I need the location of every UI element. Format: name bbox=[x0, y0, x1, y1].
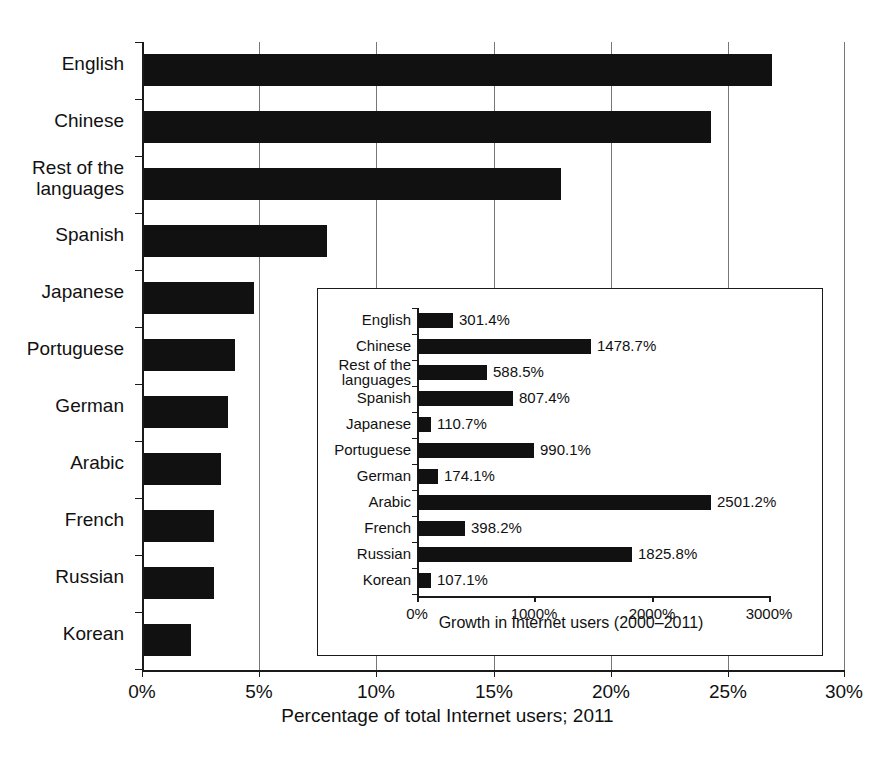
inset-label-rest-line2: languages bbox=[315, 372, 411, 388]
main-gridline-30 bbox=[844, 42, 845, 670]
main-label-english: English bbox=[0, 53, 124, 74]
main-label-japanese: Japanese bbox=[0, 281, 124, 302]
main-bar-russian bbox=[144, 567, 214, 599]
main-xticklabel-30: 30% bbox=[809, 681, 879, 703]
main-xtick-15 bbox=[494, 670, 495, 677]
main-label-korean: Korean bbox=[0, 623, 124, 644]
inset-value-korean: 107.1% bbox=[437, 571, 488, 588]
main-label-rest-line2: languages bbox=[0, 178, 124, 199]
inset-bar-german bbox=[418, 469, 438, 484]
inset-ytick-11 bbox=[412, 594, 417, 595]
main-x-axis-title: Percentage of total Internet users; 2011 bbox=[0, 705, 895, 727]
inset-ytick-5 bbox=[412, 438, 417, 439]
inset-x-axis-title: Growth in Internet users (2000–2011) bbox=[318, 614, 824, 632]
inset-value-russian: 1825.8% bbox=[638, 545, 697, 562]
main-label-portuguese: Portuguese bbox=[0, 338, 124, 359]
main-ytick-7 bbox=[135, 441, 142, 442]
main-ytick-9 bbox=[135, 555, 142, 556]
inset-label-french: French bbox=[315, 520, 411, 536]
main-label-chinese: Chinese bbox=[0, 110, 124, 131]
main-xticklabel-5: 5% bbox=[224, 681, 294, 703]
inset-label-chinese: Chinese bbox=[315, 338, 411, 354]
inset-value-french: 398.2% bbox=[471, 519, 522, 536]
main-label-german: German bbox=[0, 395, 124, 416]
inset-xtick-1000 bbox=[534, 596, 536, 602]
inset-label-english: English bbox=[315, 312, 411, 328]
inset-value-chinese: 1478.7% bbox=[597, 337, 656, 354]
main-bar-arabic bbox=[144, 453, 221, 485]
inset-ytick-3 bbox=[412, 386, 417, 387]
inset-label-russian: Russian bbox=[315, 546, 411, 562]
inset-ytick-9 bbox=[412, 542, 417, 543]
inset-chart-panel: English Chinese Rest of the languages Sp… bbox=[317, 288, 823, 656]
inset-xtick-3000 bbox=[769, 596, 771, 602]
inset-bar-japanese bbox=[418, 417, 431, 432]
main-xtick-0 bbox=[142, 670, 143, 677]
main-bar-german bbox=[144, 396, 228, 428]
inset-value-portuguese: 990.1% bbox=[540, 441, 591, 458]
main-ytick-6 bbox=[135, 384, 142, 385]
inset-label-portuguese: Portuguese bbox=[315, 442, 411, 458]
inset-ytick-7 bbox=[412, 490, 417, 491]
inset-value-spanish: 807.4% bbox=[519, 389, 570, 406]
inset-label-korean: Korean bbox=[315, 572, 411, 588]
main-bar-portuguese bbox=[144, 339, 235, 371]
inset-value-arabic: 2501.2% bbox=[717, 493, 776, 510]
main-ytick-0 bbox=[135, 42, 142, 43]
inset-ytick-2 bbox=[412, 360, 417, 361]
inset-label-japanese: Japanese bbox=[315, 416, 411, 432]
inset-xtick-0 bbox=[417, 596, 419, 602]
inset-ytick-8 bbox=[412, 516, 417, 517]
main-ytick-8 bbox=[135, 498, 142, 499]
main-ytick-2 bbox=[135, 156, 142, 157]
main-bar-english bbox=[144, 54, 772, 86]
main-xticklabel-10: 10% bbox=[341, 681, 411, 703]
inset-category-labels: English Chinese Rest of the languages Sp… bbox=[318, 308, 415, 596]
inset-label-german: German bbox=[315, 468, 411, 484]
inset-bar-russian bbox=[418, 547, 632, 562]
inset-chart-plot-area: 301.4% 1478.7% 588.5% 807.4% 110.7% 990.… bbox=[417, 308, 769, 596]
main-ytick-11 bbox=[135, 669, 142, 670]
main-bar-japanese bbox=[144, 282, 254, 314]
main-xtick-10 bbox=[376, 670, 377, 677]
inset-bar-english bbox=[418, 313, 453, 328]
inset-bar-rest bbox=[418, 365, 487, 380]
main-xtick-5 bbox=[259, 670, 260, 677]
inset-value-english: 301.4% bbox=[459, 311, 510, 328]
inset-ytick-10 bbox=[412, 568, 417, 569]
inset-x-axis-line bbox=[417, 596, 769, 598]
inset-label-spanish: Spanish bbox=[315, 390, 411, 406]
main-label-russian: Russian bbox=[0, 566, 124, 587]
main-label-spanish: Spanish bbox=[0, 224, 124, 245]
main-bar-french bbox=[144, 510, 214, 542]
inset-xtick-2000 bbox=[652, 596, 654, 602]
inset-bar-arabic bbox=[418, 495, 711, 510]
main-bar-chinese bbox=[144, 111, 711, 143]
inset-bar-chinese bbox=[418, 339, 591, 354]
main-label-rest-line1: Rest of the bbox=[0, 157, 124, 178]
main-bar-spanish bbox=[144, 225, 327, 257]
main-xticklabel-15: 15% bbox=[459, 681, 529, 703]
main-xticklabel-25: 25% bbox=[693, 681, 763, 703]
main-xtick-30 bbox=[844, 670, 845, 677]
inset-ytick-4 bbox=[412, 412, 417, 413]
main-label-french: French bbox=[0, 509, 124, 530]
inset-label-arabic: Arabic bbox=[315, 494, 411, 510]
main-xticklabel-20: 20% bbox=[576, 681, 646, 703]
main-bar-rest bbox=[144, 168, 561, 200]
inset-bar-korean bbox=[418, 573, 431, 588]
inset-ytick-6 bbox=[412, 464, 417, 465]
main-ytick-1 bbox=[135, 99, 142, 100]
main-bar-korean bbox=[144, 624, 191, 656]
figure-root: English Chinese Rest of the languages Sp… bbox=[0, 0, 895, 767]
main-ytick-5 bbox=[135, 327, 142, 328]
main-ytick-3 bbox=[135, 213, 142, 214]
main-label-arabic: Arabic bbox=[0, 452, 124, 473]
main-ytick-10 bbox=[135, 612, 142, 613]
main-xticklabel-0: 0% bbox=[107, 681, 177, 703]
inset-value-rest: 588.5% bbox=[493, 363, 544, 380]
main-xtick-25 bbox=[728, 670, 729, 677]
inset-bar-french bbox=[418, 521, 465, 536]
main-ytick-4 bbox=[135, 270, 142, 271]
inset-value-german: 174.1% bbox=[444, 467, 495, 484]
